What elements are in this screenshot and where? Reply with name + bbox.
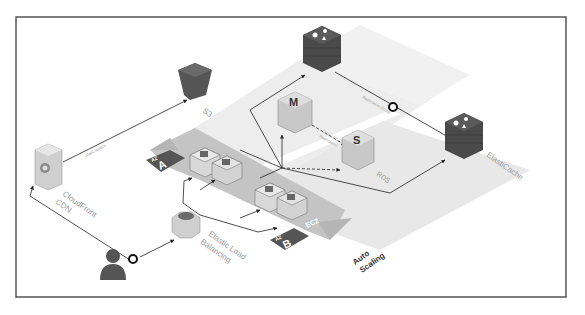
cloudfront-icon [35,144,62,190]
elasticache-node-top [303,26,341,72]
elasticache-node-right [445,113,483,159]
rds-master-icon: M [278,92,312,133]
architecture-diagram: S3 CloudFront CDN Static assets Elastic … [0,0,585,315]
rds-standby-icon: S [342,130,374,170]
rds-master-letter: M [289,96,298,108]
elastic-load-balancing-icon [172,212,200,238]
rds-standby-letter: S [353,134,360,146]
